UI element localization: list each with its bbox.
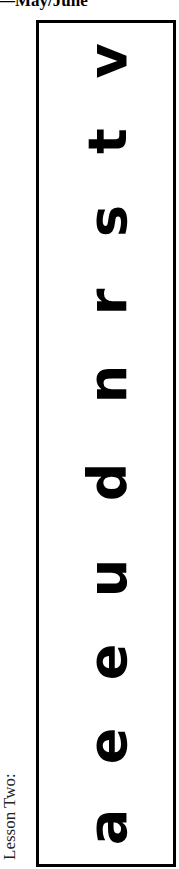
letter-card: d bbox=[78, 452, 138, 512]
letter-card: r bbox=[78, 272, 138, 332]
letter-card: a bbox=[78, 797, 138, 857]
letter-card: s bbox=[78, 191, 138, 251]
letter-card: e bbox=[78, 716, 138, 776]
letter-card: e bbox=[78, 632, 138, 692]
letter-card: n bbox=[78, 354, 138, 414]
letter-card: t bbox=[78, 111, 138, 171]
lesson-label: Lesson Two: bbox=[0, 760, 20, 860]
letter-card: v bbox=[78, 31, 138, 91]
letter-card: u bbox=[78, 548, 138, 608]
month-header: —May/June bbox=[0, 0, 88, 11]
